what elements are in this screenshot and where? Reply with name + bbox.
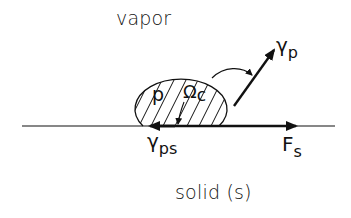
diagram-canvas: vapor p Ωc γp γps Fs solid (s) [0, 0, 351, 218]
gamma-p-arrow [234, 50, 274, 106]
force-symbol: F [282, 132, 294, 156]
gamma-p-subscript: p [288, 43, 298, 62]
gamma-ps-subscript: ps [159, 139, 178, 158]
gamma-symbol: γ [147, 129, 159, 153]
droplet-p-label: p [152, 85, 164, 104]
angle-curve-arrow [212, 69, 252, 78]
omega-subscript: c [197, 85, 206, 105]
force-s-subscript: s [294, 142, 302, 161]
droplet-shape [108, 60, 256, 140]
vapor-label: vapor [116, 9, 171, 28]
force-s-label: Fs [282, 134, 302, 154]
gamma-p-label: γp [276, 35, 298, 55]
gamma-symbol: γ [276, 33, 288, 57]
omega-c-label: Ωc [183, 83, 206, 101]
solid-label: solid (s) [175, 183, 252, 202]
omega-symbol: Ω [183, 81, 197, 102]
gamma-ps-label: γps [147, 131, 177, 151]
